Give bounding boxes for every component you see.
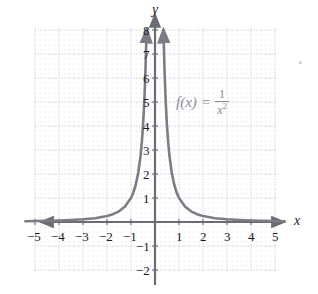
function-graph-figure: −5 −4 −3 −2 −1 1 2 3 4 5 8 7 6 5 4 3 2 1… bbox=[0, 0, 318, 294]
fraction-numerator: 1 bbox=[217, 88, 227, 101]
x-tick-label-2: 2 bbox=[200, 230, 207, 243]
y-tick-label--2: −2 bbox=[136, 264, 150, 277]
fraction: 1 x2 bbox=[215, 88, 228, 116]
y-tick-label-6: 6 bbox=[143, 72, 150, 85]
x-tick-label--5: −5 bbox=[27, 230, 41, 243]
y-tick-label--1: −1 bbox=[136, 240, 150, 253]
x-tick-label-5: 5 bbox=[272, 230, 279, 243]
y-tick-label-5: 5 bbox=[143, 96, 150, 109]
function-lhs: f(x) bbox=[176, 95, 197, 110]
graph-canvas bbox=[0, 0, 318, 294]
y-tick-label-4: 4 bbox=[143, 120, 150, 133]
y-axis-label: y bbox=[152, 3, 158, 17]
denominator-exponent: 2 bbox=[223, 102, 227, 111]
x-tick-label--4: −4 bbox=[51, 230, 65, 243]
equals-sign: = bbox=[202, 95, 210, 110]
y-tick-label-3: 3 bbox=[143, 144, 150, 157]
x-axis-label: x bbox=[294, 214, 300, 228]
x-tick-label-1: 1 bbox=[176, 230, 183, 243]
function-equation-label: f(x) = 1 x2 bbox=[176, 88, 229, 116]
x-tick-label--3: −3 bbox=[75, 230, 89, 243]
x-tick-label-4: 4 bbox=[248, 230, 255, 243]
y-tick-label-8: 8 bbox=[143, 24, 150, 37]
fraction-denominator: x2 bbox=[215, 102, 228, 116]
scan-artifact-speck bbox=[299, 61, 302, 64]
y-tick-label-7: 7 bbox=[143, 48, 150, 61]
x-tick-label--2: −2 bbox=[99, 230, 113, 243]
y-tick-label-2: 2 bbox=[143, 168, 150, 181]
x-tick-label-3: 3 bbox=[224, 230, 231, 243]
y-tick-label-1: 1 bbox=[143, 192, 150, 205]
x-tick-label--1: −1 bbox=[123, 230, 137, 243]
